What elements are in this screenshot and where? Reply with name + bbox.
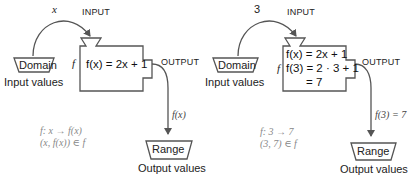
notation-left-pair: (x, f(x)) ∈ f xyxy=(40,137,85,149)
diagram-lines xyxy=(0,0,413,176)
notation-left-mapping: f: x → f(x) xyxy=(40,125,85,137)
range-label-left: Range xyxy=(152,144,184,155)
domain-label-right: Domain xyxy=(218,60,256,71)
equation-line-left: f(x) = 2x + 1 xyxy=(86,59,147,71)
domain-label-left: Domain xyxy=(19,60,57,71)
output-value-right: f(3) = 7 xyxy=(375,110,406,120)
domain-caption-left: Input values xyxy=(4,77,63,88)
range-caption-right: Output values xyxy=(340,164,408,175)
output-arc-left xyxy=(152,64,168,134)
input-caption-left: INPUT xyxy=(82,8,110,17)
input-symbol-left: x xyxy=(52,4,57,15)
equation-line-3-right: = 7 xyxy=(306,77,322,89)
notation-right-pair: (3, 7) ∈ f xyxy=(260,138,297,150)
function-machine-diagram: x INPUT OUTPUT f Domain Input values f(x… xyxy=(0,0,413,176)
output-caption-right: OUTPUT xyxy=(362,58,400,67)
input-symbol-right: 3 xyxy=(254,4,260,15)
machine-name-right: f xyxy=(277,63,280,74)
equation-line-1-right: f(x) = 2x + 1 xyxy=(286,49,347,61)
output-arc-right xyxy=(355,64,371,136)
output-caption-left: OUTPUT xyxy=(161,58,199,67)
equation-line-2-right: f(3) = 2 · 3 + 1 xyxy=(286,63,359,75)
notation-right-mapping: f: 3 → 7 xyxy=(260,126,297,138)
range-label-right: Range xyxy=(357,146,389,157)
range-caption-left: Output values xyxy=(138,163,206,174)
output-value-left: f(x) xyxy=(172,110,186,120)
notation-right: f: 3 → 7 (3, 7) ∈ f xyxy=(260,126,297,150)
notation-left: f: x → f(x) (x, f(x)) ∈ f xyxy=(40,125,85,149)
machine-name-left: f xyxy=(72,58,75,69)
domain-caption-right: Input values xyxy=(205,77,264,88)
input-caption-right: INPUT xyxy=(287,8,315,17)
